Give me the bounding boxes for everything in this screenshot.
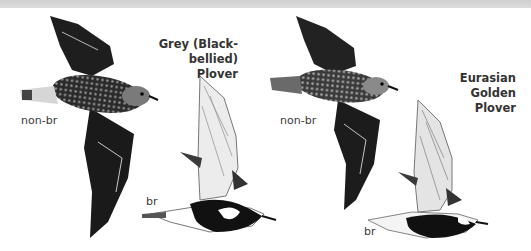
golden-plover-nonbreeding-label: non-br bbox=[280, 114, 316, 127]
golden-plover-breeding-illustration bbox=[362, 100, 492, 240]
golden-plover-title-line1: Eurasian Golden bbox=[420, 71, 516, 101]
field-guide-plate: non-br Grey (Black-bellied) Plover br bbox=[0, 8, 531, 251]
grey-plover-breeding-illustration bbox=[140, 76, 280, 236]
grey-plover-nonbreeding-label: non-br bbox=[21, 114, 57, 127]
golden-plover-breeding-label: br bbox=[364, 225, 376, 238]
grey-plover-title-line1: Grey (Black-bellied) bbox=[120, 37, 238, 67]
grey-plover-breeding-label: br bbox=[146, 195, 158, 208]
header-band bbox=[0, 0, 531, 8]
